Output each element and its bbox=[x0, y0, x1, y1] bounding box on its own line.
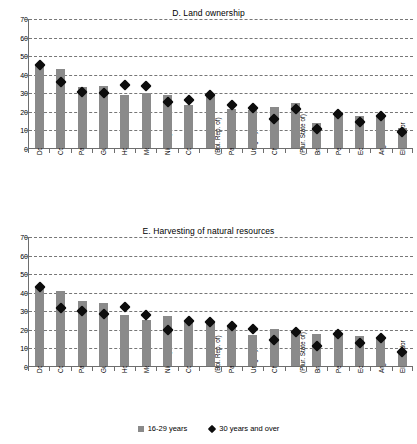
bar bbox=[248, 110, 257, 148]
category-column bbox=[29, 237, 50, 366]
bar bbox=[120, 95, 129, 148]
x-label-cell: Mexico bbox=[135, 155, 156, 219]
diamond-marker bbox=[141, 309, 152, 320]
category-column bbox=[157, 19, 178, 148]
category-column bbox=[50, 19, 71, 148]
category-column bbox=[370, 237, 391, 366]
x-label-cell: Uruguay bbox=[242, 155, 263, 219]
category-column bbox=[328, 19, 349, 148]
x-label-cell: Nicaragua bbox=[156, 155, 177, 219]
category-column bbox=[306, 237, 327, 366]
category-column bbox=[306, 19, 327, 148]
category-column bbox=[349, 19, 370, 148]
category-column bbox=[136, 237, 157, 366]
bar bbox=[142, 93, 151, 148]
chart-e-plot: 010203040506070 Dominican Rep.ColombiaPa… bbox=[0, 237, 417, 433]
x-label-cell: Venezuela (Bol. Rep. of) bbox=[199, 155, 220, 219]
bar bbox=[35, 65, 44, 148]
category-column bbox=[392, 19, 413, 148]
diamond-marker bbox=[119, 301, 130, 312]
chart-e-block: E. Harvesting of natural resources 01020… bbox=[0, 222, 417, 432]
x-label-cell: Argentina bbox=[370, 155, 391, 219]
figure-root: D. Land ownership 010203040506070 Domini… bbox=[0, 0, 417, 432]
legend-diamond-swatch-icon bbox=[208, 424, 216, 432]
category-column bbox=[178, 237, 199, 366]
bar bbox=[184, 105, 193, 148]
x-label-cell: Honduras bbox=[114, 155, 135, 219]
x-label-cell: El Salvador bbox=[392, 155, 413, 219]
legend-item-16-29: 16-29 years bbox=[138, 424, 188, 433]
bar bbox=[184, 321, 193, 366]
x-label-cell: Peru bbox=[327, 155, 348, 219]
x-label-cell: Paraguay bbox=[71, 155, 92, 219]
x-label-cell: Brazil bbox=[306, 155, 327, 219]
diamond-marker bbox=[119, 79, 130, 90]
category-column bbox=[93, 237, 114, 366]
category-column bbox=[392, 237, 413, 366]
bar bbox=[334, 335, 343, 366]
category-column bbox=[50, 237, 71, 366]
diamond-marker bbox=[141, 80, 152, 91]
figure-legend: 16-29 years 30 years and over bbox=[0, 424, 417, 433]
x-label-cell: Guatemala bbox=[92, 155, 113, 219]
bar bbox=[120, 315, 129, 366]
chart-d-x-ticks bbox=[28, 149, 413, 153]
category-column bbox=[328, 237, 349, 366]
category-column bbox=[264, 237, 285, 366]
bars-row bbox=[29, 237, 413, 366]
x-label-cell: Colombia bbox=[49, 155, 70, 219]
chart-d-plot-area bbox=[28, 19, 413, 149]
category-column bbox=[136, 19, 157, 148]
category-column bbox=[242, 237, 263, 366]
chart-e-x-ticks bbox=[28, 367, 413, 371]
chart-d-plot: 010203040506070 Dominican Rep.ColombiaPa… bbox=[0, 19, 417, 219]
legend-bar-swatch-icon bbox=[138, 426, 144, 432]
bar bbox=[227, 109, 236, 148]
category-column bbox=[221, 19, 242, 148]
diamond-marker bbox=[183, 94, 194, 105]
category-column bbox=[221, 237, 242, 366]
chart-d-x-labels: Dominican Rep.ColombiaParaguayGuatemalaH… bbox=[28, 155, 413, 219]
diamond-marker bbox=[247, 323, 258, 334]
chart-e-title: E. Harvesting of natural resources bbox=[0, 222, 417, 237]
category-column bbox=[178, 19, 199, 148]
category-column bbox=[72, 237, 93, 366]
legend-label-16-29: 16-29 years bbox=[148, 424, 188, 433]
category-column bbox=[242, 19, 263, 148]
chart-d-title: D. Land ownership bbox=[0, 0, 417, 19]
bar bbox=[248, 335, 257, 366]
bar bbox=[35, 287, 44, 366]
chart-e-plot-area bbox=[28, 237, 413, 367]
bar bbox=[206, 322, 215, 366]
category-column bbox=[93, 19, 114, 148]
category-column bbox=[72, 19, 93, 148]
category-column bbox=[114, 19, 135, 148]
bars-row bbox=[29, 19, 413, 148]
x-label-cell: Ecuador bbox=[349, 155, 370, 219]
bar bbox=[206, 94, 215, 148]
category-column bbox=[157, 237, 178, 366]
chart-d-block: D. Land ownership 010203040506070 Domini… bbox=[0, 0, 417, 222]
x-label-cell: Costa Rica bbox=[178, 155, 199, 219]
category-column bbox=[370, 19, 391, 148]
x-label-cell: Dominican Rep. bbox=[28, 155, 49, 219]
category-column bbox=[264, 19, 285, 148]
x-label-cell: Bolivia (Plur. State of) bbox=[285, 155, 306, 219]
legend-label-30-and-over: 30 years and over bbox=[219, 424, 279, 433]
category-column bbox=[349, 237, 370, 366]
legend-item-30-and-over: 30 years and over bbox=[209, 424, 279, 433]
category-column bbox=[29, 19, 50, 148]
x-label-cell: Panama bbox=[221, 155, 242, 219]
category-column bbox=[114, 237, 135, 366]
bar bbox=[142, 320, 151, 366]
bar bbox=[163, 316, 172, 367]
x-label-cell: Chile bbox=[263, 155, 284, 219]
